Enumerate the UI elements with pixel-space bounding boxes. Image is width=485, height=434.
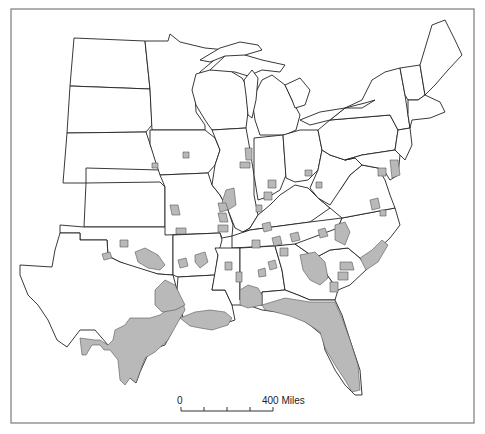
scale-bar: 0 400 Miles <box>177 395 305 411</box>
shaded-area-miss-1 <box>225 262 232 270</box>
state-kansas <box>84 182 165 227</box>
shaded-area-va-2 <box>380 210 386 216</box>
shaded-area-ark-2 <box>178 258 188 268</box>
scale-bar-ticks <box>181 407 273 411</box>
shaded-area-tn-1 <box>280 248 288 256</box>
shaded-area-mo-1 <box>170 205 180 215</box>
shaded-area-miss-2 <box>236 272 242 282</box>
shaded-area-ky-2 <box>272 236 282 246</box>
shaded-area-oh-2 <box>316 182 322 188</box>
scale-start-label: 0 <box>177 395 183 406</box>
scale-end-label: 400 Miles <box>262 395 305 406</box>
state-north-dakota <box>70 38 150 89</box>
shaded-area-il-5 <box>240 162 250 168</box>
shaded-area-sc-1 <box>340 262 354 270</box>
shaded-area-in-3 <box>256 205 262 212</box>
shaded-area-ia-1 <box>183 152 189 158</box>
shaded-area-ky-3 <box>290 232 300 242</box>
shaded-area-il-3 <box>218 213 228 222</box>
shaded-area-ky-1 <box>262 222 272 232</box>
shaded-area-ok-1 <box>120 240 128 247</box>
shaded-area-delmarva <box>390 160 400 178</box>
state-maine <box>420 20 462 95</box>
shaded-area-sc-2 <box>338 272 348 280</box>
shaded-area-va-1 <box>370 198 380 210</box>
shaded-area-ga-1 <box>330 282 338 292</box>
shaded-area-mo-2 <box>176 228 186 234</box>
state-mass-ri-ct <box>408 95 445 128</box>
shaded-area-in-1 <box>268 180 276 188</box>
state-south-dakota <box>67 86 152 133</box>
shaded-area-ala-1 <box>268 260 277 270</box>
shaded-area-ne-1 <box>152 163 158 168</box>
shaded-area-mo-3 <box>218 225 228 232</box>
shaded-area-tn-2 <box>252 240 260 248</box>
shaded-area-il-2 <box>218 203 228 212</box>
shaded-area-in-2 <box>264 192 272 200</box>
map-canvas: 0 400 Miles <box>0 0 485 434</box>
shaded-area-florida-shade <box>262 298 360 392</box>
shaded-area-ala-2 <box>258 268 266 277</box>
shaded-area-il-4 <box>245 148 252 160</box>
state-nebraska <box>63 132 160 183</box>
state-indiana <box>254 135 286 200</box>
shaded-area-va-3 <box>378 168 386 176</box>
shaded-area-oh-1 <box>305 170 312 176</box>
